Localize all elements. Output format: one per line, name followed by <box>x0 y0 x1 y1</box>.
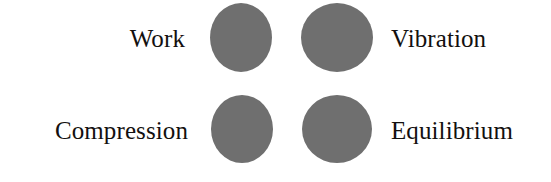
label-vibration: Vibration <box>391 26 486 51</box>
label-work: Work <box>130 26 185 51</box>
concept-diagram: Work Vibration Compression Equilibrium <box>0 0 551 182</box>
label-compression: Compression <box>55 118 188 143</box>
circle-bottom-left <box>211 95 273 163</box>
circle-bottom-right <box>302 95 372 163</box>
label-equilibrium: Equilibrium <box>391 118 513 143</box>
circle-top-right <box>301 3 373 72</box>
circle-top-left <box>210 3 272 72</box>
